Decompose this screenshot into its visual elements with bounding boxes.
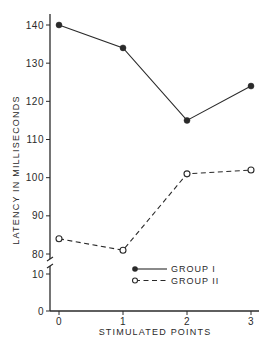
y-tick-label: 80 — [32, 249, 44, 260]
legend-label: GROUP II — [171, 276, 219, 286]
y-tick-label: 130 — [26, 58, 44, 69]
legend-item: GROUP II — [133, 276, 220, 286]
x-axis-title: STIMULATED POINTS — [99, 327, 212, 337]
open-circle-marker — [56, 236, 62, 242]
series-group-ii — [56, 167, 254, 253]
legend-label: GROUP I — [171, 264, 216, 274]
y-tick-label: 120 — [26, 96, 44, 107]
series-line — [59, 25, 251, 120]
y-tick-label: 90 — [32, 210, 44, 221]
filled-circle-marker — [56, 22, 62, 28]
series-line — [59, 170, 251, 250]
x-tick-label: 1 — [120, 316, 126, 327]
open-circle-marker — [133, 278, 138, 283]
series-group-i — [56, 22, 254, 123]
line-chart: 80901001101201301400100123 GROUP IGROUP … — [0, 0, 273, 350]
open-circle-marker — [248, 167, 254, 173]
open-circle-marker — [120, 247, 126, 253]
y-tick-label: 0 — [38, 306, 44, 317]
series-layer — [56, 22, 254, 253]
x-tick-label: 2 — [184, 316, 190, 327]
filled-circle-marker — [132, 266, 138, 272]
axis-break-mark — [47, 257, 53, 268]
y-tick-label: 140 — [26, 20, 44, 31]
y-tick-label: 100 — [26, 172, 44, 183]
filled-circle-marker — [248, 83, 254, 89]
filled-circle-marker — [184, 117, 190, 123]
y-tick-label: 10 — [32, 269, 44, 280]
axes: 80901001101201301400100123 — [26, 14, 259, 327]
legend-item: GROUP I — [132, 264, 216, 274]
x-tick-label: 3 — [248, 316, 254, 327]
legend: GROUP IGROUP II — [132, 264, 219, 286]
y-tick-label: 110 — [27, 134, 44, 145]
y-axis-title: LATENCY IN MILLISECONDS — [11, 95, 21, 244]
open-circle-marker — [184, 171, 190, 177]
x-tick-label: 0 — [56, 316, 62, 327]
filled-circle-marker — [120, 45, 126, 51]
